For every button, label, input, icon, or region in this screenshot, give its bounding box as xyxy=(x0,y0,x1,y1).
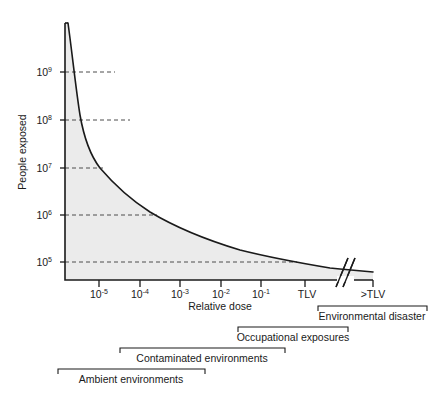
y-tick-base-4: 10 xyxy=(36,256,48,268)
x-tick-base-1: 10 xyxy=(131,288,143,300)
y-tick-exp-3: 6 xyxy=(48,209,52,216)
y-tick-base-2: 10 xyxy=(36,162,48,174)
bracket-label-occupational-exposures: Occupational exposures xyxy=(237,331,350,343)
y-tick-base-1: 10 xyxy=(36,114,48,126)
x-axis-title: Relative dose xyxy=(188,300,252,312)
x-tick-exp-0: -5 xyxy=(102,288,108,295)
y-tick-exp-0: 9 xyxy=(48,66,52,73)
y-axis-title: People exposed xyxy=(16,114,28,189)
bracket-label-contaminated-environments: Contaminated environments xyxy=(136,352,267,364)
x-tick-base-2: 10 xyxy=(171,288,183,300)
bracket-label-ambient-environments: Ambient environments xyxy=(79,373,183,385)
x-tick-exp-1: -4 xyxy=(143,288,149,295)
x-tick-base-4: 10 xyxy=(252,288,264,300)
x-tick-exp-3: -2 xyxy=(224,288,230,295)
bracket-label-environmental-disaster: Environmental disaster xyxy=(319,310,426,322)
y-tick-base-0: 10 xyxy=(36,66,48,78)
y-tick-exp-1: 8 xyxy=(48,114,52,121)
x-tick-label-gt-tlv: >TLV xyxy=(361,288,386,300)
exposure-dose-chart: 109 108 107 106 105 People exposed xyxy=(0,0,432,395)
x-tick-exp-4: -1 xyxy=(264,288,270,295)
x-tick-base-3: 10 xyxy=(212,288,224,300)
x-tick-label-tlv: TLV xyxy=(298,288,316,300)
y-tick-exp-2: 7 xyxy=(48,162,52,169)
x-tick-exp-2: -3 xyxy=(183,288,189,295)
y-tick-base-3: 10 xyxy=(36,209,48,221)
y-tick-exp-4: 5 xyxy=(48,256,52,263)
x-tick-base-0: 10 xyxy=(90,288,102,300)
